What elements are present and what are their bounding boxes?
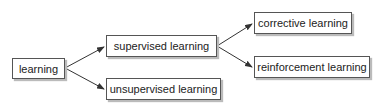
node-supervised-learning: supervised learning bbox=[106, 35, 217, 57]
edge-learning-supervised bbox=[65, 47, 104, 68]
node-reinforcement-learning: reinforcement learning bbox=[254, 56, 370, 78]
edge-supervised-corrective bbox=[217, 24, 252, 46]
node-corrective-learning: corrective learning bbox=[254, 12, 352, 34]
node-learning: learning bbox=[12, 58, 65, 79]
edge-learning-unsupervised bbox=[65, 68, 104, 89]
node-unsupervised-learning: unsupervised learning bbox=[106, 78, 221, 100]
edge-supervised-reinforcement bbox=[217, 46, 252, 67]
